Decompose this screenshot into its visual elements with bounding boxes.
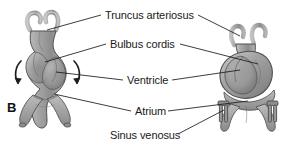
heart-looping-figure: Truncus arteriosus Bulbus cordis Ventric… [0, 0, 294, 149]
label-truncus-arteriosus: Truncus arteriosus [105, 9, 194, 21]
looping-arrow-right [73, 61, 80, 85]
panel-letter: B [7, 100, 16, 115]
label-atrium: Atrium [135, 105, 166, 117]
label-ventricle: Ventricle [127, 74, 168, 86]
looping-arrow-left [15, 61, 22, 85]
label-bulbus-cordis: Bulbus cordis [110, 38, 175, 50]
label-sinus-venosus: Sinus venosus [110, 129, 180, 141]
left-heart-tube [19, 12, 71, 128]
leader-truncus-left [47, 15, 101, 30]
right-heart-looped [218, 25, 278, 131]
leader-sinus-venosus [178, 110, 224, 134]
